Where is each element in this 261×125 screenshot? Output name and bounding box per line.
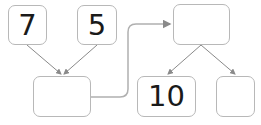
sum-box[interactable]: [33, 76, 91, 117]
arrow-top-to-part2: [201, 45, 235, 74]
part-box-1: 10: [137, 76, 196, 117]
top-box[interactable]: [173, 4, 230, 45]
arrow-b-to-sum: [64, 45, 97, 74]
part-box-2[interactable]: [216, 76, 255, 117]
number-box-b: 5: [77, 5, 117, 45]
arrow-top-to-part1: [168, 45, 201, 74]
arrow-a-to-sum: [27, 45, 61, 74]
number-box-a: 7: [8, 5, 47, 45]
